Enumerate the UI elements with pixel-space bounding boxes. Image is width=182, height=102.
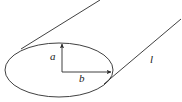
diagram-canvas — [0, 0, 182, 102]
label-slant-line-l: l — [150, 54, 153, 65]
label-semi-axis-a: a — [50, 51, 56, 62]
label-semi-axis-b: b — [79, 73, 85, 84]
base-ellipse — [5, 43, 113, 97]
upper-tangent-line — [21, 0, 100, 49]
ellipse-diagram: a b l — [0, 0, 182, 102]
lower-tangent-line — [104, 19, 181, 84]
